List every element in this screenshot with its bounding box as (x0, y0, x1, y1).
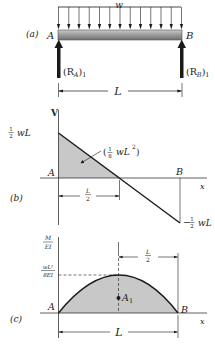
shear-end-b-label: B (175, 166, 183, 177)
reaction-arrow-b (178, 40, 187, 79)
load-arrow-icon (149, 24, 152, 30)
panel-a-label: (a) (26, 29, 39, 39)
moment-end-b-label: B (180, 304, 188, 315)
moment-axis-label: M EI (43, 234, 53, 250)
span-length-label: L (113, 85, 121, 98)
svg-text:M: M (44, 234, 52, 241)
shear-x-axis-label: x (200, 182, 205, 191)
beam (58, 30, 182, 40)
load-arrow-icon (139, 24, 142, 30)
moment-x-axis-label: x (200, 317, 205, 326)
svg-text:wL: wL (17, 128, 31, 138)
reaction-arrow-a (55, 40, 64, 79)
svg-text:8EI: 8EI (43, 272, 54, 278)
load-arrow-icon (88, 24, 91, 30)
reaction-a-label: (RA)1 (63, 66, 86, 79)
svg-text:1: 1 (190, 216, 194, 222)
shear-min-label: − 1 2 wL (183, 216, 212, 229)
svg-text:L: L (85, 187, 90, 194)
svg-text:): ) (136, 147, 140, 157)
load-arrow-icon (118, 24, 121, 30)
bottom-span-label: L (114, 326, 122, 339)
svg-text:1: 1 (9, 126, 13, 132)
svg-text:8: 8 (108, 153, 112, 159)
reaction-b-label: (RB)1 (186, 66, 210, 79)
shear-end-a-label: A (47, 167, 55, 178)
beam-end-b-label: B (185, 30, 193, 41)
svg-text:2: 2 (146, 256, 150, 263)
svg-text:2: 2 (190, 223, 194, 229)
svg-text:(: ( (103, 147, 107, 157)
svg-text:wL: wL (198, 218, 212, 228)
distributed-load-arrows (57, 7, 183, 30)
moment-peak-label: wL² 8EI (41, 264, 55, 278)
panel-b-shear-diagram: V x 1 2 wL ( 1 8 wL 2 ) A B (b) (9, 108, 212, 229)
panel-c-moment-diagram: M EI wL² 8EI L 2 A1 A B x (c) (10, 234, 207, 339)
load-arrow-icon (129, 24, 132, 30)
svg-text:wL²: wL² (43, 264, 54, 270)
moment-end-a-label: A (47, 301, 55, 312)
upper-half-span-label: L 2 (145, 248, 151, 263)
load-arrow-icon (159, 24, 162, 30)
shear-area-label: ( 1 8 wL 2 ) (103, 143, 140, 159)
load-arrow-icon (170, 24, 173, 30)
svg-text:1: 1 (108, 146, 112, 152)
load-intensity-label: w (115, 0, 123, 10)
svg-text:2: 2 (9, 133, 13, 139)
load-arrow-icon (108, 24, 111, 30)
shear-max-label: 1 2 wL (9, 126, 31, 139)
load-arrow-icon (77, 24, 80, 30)
centroid-point (117, 296, 121, 300)
half-span-label: L 2 (85, 187, 91, 202)
beam-end-a-label: A (46, 30, 54, 41)
panel-b-label: (b) (10, 193, 23, 203)
load-arrow-icon (180, 24, 183, 30)
shear-axis-label: V (50, 108, 59, 118)
svg-text:wL: wL (116, 147, 130, 157)
svg-text:EI: EI (44, 243, 52, 250)
svg-text:L: L (145, 248, 150, 255)
load-arrow-icon (67, 24, 70, 30)
load-arrow-icon (98, 24, 101, 30)
panel-a-loaded-beam: w (a) A B (RA)1 (RB)1 L (26, 0, 210, 98)
svg-text:2: 2 (86, 195, 90, 202)
panel-c-label: (c) (10, 314, 23, 324)
beam-deflection-diagram: w (a) A B (RA)1 (RB)1 L V (0, 0, 215, 348)
load-arrow-icon (57, 24, 60, 30)
